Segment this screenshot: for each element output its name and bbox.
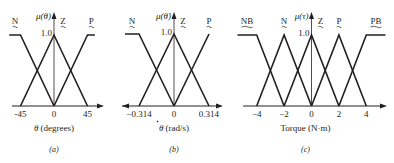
- tilde-mark: [207, 26, 212, 28]
- dot-accent: [157, 121, 159, 123]
- label-nb: NB: [241, 16, 254, 26]
- tilde-mark: [282, 26, 287, 28]
- x-tick-label: 45: [83, 109, 93, 119]
- unit: (degrees): [38, 123, 74, 133]
- panel-label: (a): [49, 145, 59, 154]
- x-tick-label: 4: [364, 109, 369, 119]
- y-axis-arrow-icon: [309, 12, 314, 19]
- label-pb: PB: [370, 16, 381, 26]
- x-tick-label: −4: [252, 109, 262, 119]
- membership-n: [257, 35, 312, 106]
- membership-p: [312, 35, 367, 106]
- tilde-mark: [130, 26, 135, 28]
- x-axis-arrow-icon: [380, 104, 387, 109]
- label-p: P: [336, 16, 341, 26]
- label-z: Z: [318, 16, 324, 26]
- tilde-mark: [13, 26, 18, 28]
- tilde-mark: [61, 26, 66, 28]
- label-n: N: [281, 16, 288, 26]
- membership-n: [9, 35, 54, 106]
- y-axis-arrow-icon: [172, 12, 177, 19]
- x-axis-arrow-icon: [216, 104, 223, 109]
- x-tick-label: −0.314: [126, 109, 152, 119]
- membership-p: [54, 35, 95, 106]
- x-axis-label: θ (degrees): [34, 123, 74, 133]
- y-tick-label: 1.0: [298, 28, 310, 38]
- x-tick-label: 0: [309, 109, 314, 119]
- y-tick-label: 1.0: [41, 28, 53, 38]
- x-axis-label: θ (rad/s): [159, 123, 189, 133]
- panel-b: μ(θ̇)1.0NZP−0.31400.314θ (rad/s)(b): [122, 11, 223, 154]
- x-tick-label: −2: [279, 109, 289, 119]
- x-axis-label: Torque (N·m): [280, 123, 330, 133]
- tilde-mark: [370, 26, 381, 28]
- label-n: N: [129, 16, 136, 26]
- y-axis-arrow-icon: [52, 12, 57, 19]
- y-axis-label: μ(θ̇): [155, 11, 171, 21]
- tilde-mark: [318, 26, 323, 28]
- label-p: P: [206, 16, 211, 26]
- tilde-mark: [242, 26, 253, 28]
- y-axis-label: μ(θ): [35, 11, 51, 21]
- label-z: Z: [180, 16, 186, 26]
- panel-a: μ(θ)1.0NZP-45045θ (degrees)(a): [9, 11, 104, 154]
- x-tick-label: 0: [52, 109, 57, 119]
- y-tick-label: 1.0: [161, 27, 173, 37]
- panel-label: (c): [301, 145, 310, 154]
- membership-function-plots: μ(θ)1.0NZP-45045θ (degrees)(a)μ(θ̇)1.0NZ…: [0, 0, 394, 163]
- x-tick-label: -45: [15, 109, 27, 119]
- panel-c: μ(τ)1.0NBNZPPB−4−2024Torque (N·m)(c): [238, 11, 388, 154]
- tilde-mark: [337, 26, 342, 28]
- panel-label: (b): [169, 145, 179, 154]
- x-axis-left-arrow-icon: [122, 104, 129, 109]
- x-axis-arrow-icon: [97, 104, 104, 109]
- tilde-mark: [181, 26, 186, 28]
- unit: (rad/s): [163, 123, 189, 133]
- x-tick-label: 0: [172, 109, 177, 119]
- membership-n: [125, 34, 174, 106]
- tilde-mark: [89, 26, 94, 28]
- y-axis-label: μ(τ): [294, 11, 309, 21]
- x-tick-label: 0.314: [199, 109, 220, 119]
- label-z: Z: [60, 16, 66, 26]
- x-tick-label: 2: [337, 109, 342, 119]
- fuzzy-membership-figure: μ(θ)1.0NZP-45045θ (degrees)(a)μ(θ̇)1.0NZ…: [0, 0, 394, 163]
- label-p: P: [89, 16, 94, 26]
- label-n: N: [12, 16, 19, 26]
